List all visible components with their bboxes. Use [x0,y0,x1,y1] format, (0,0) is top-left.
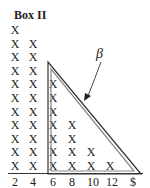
triangle-annotation [0,0,150,188]
x-axis-tick-label: 4 [23,176,43,188]
x-axis-tick-label: 12 [102,176,122,188]
arrow-head-icon [84,93,91,101]
x-axis-tick-label: 8 [62,176,82,188]
x-axis-tick-label: 2 [5,176,25,188]
arrow-line [88,62,101,96]
x-axis-tick-label: 10 [83,176,103,188]
x-axis-tick-label: $ [123,176,143,188]
beta-label: β [96,47,103,61]
x-axis-tick-label: 6 [43,176,63,188]
